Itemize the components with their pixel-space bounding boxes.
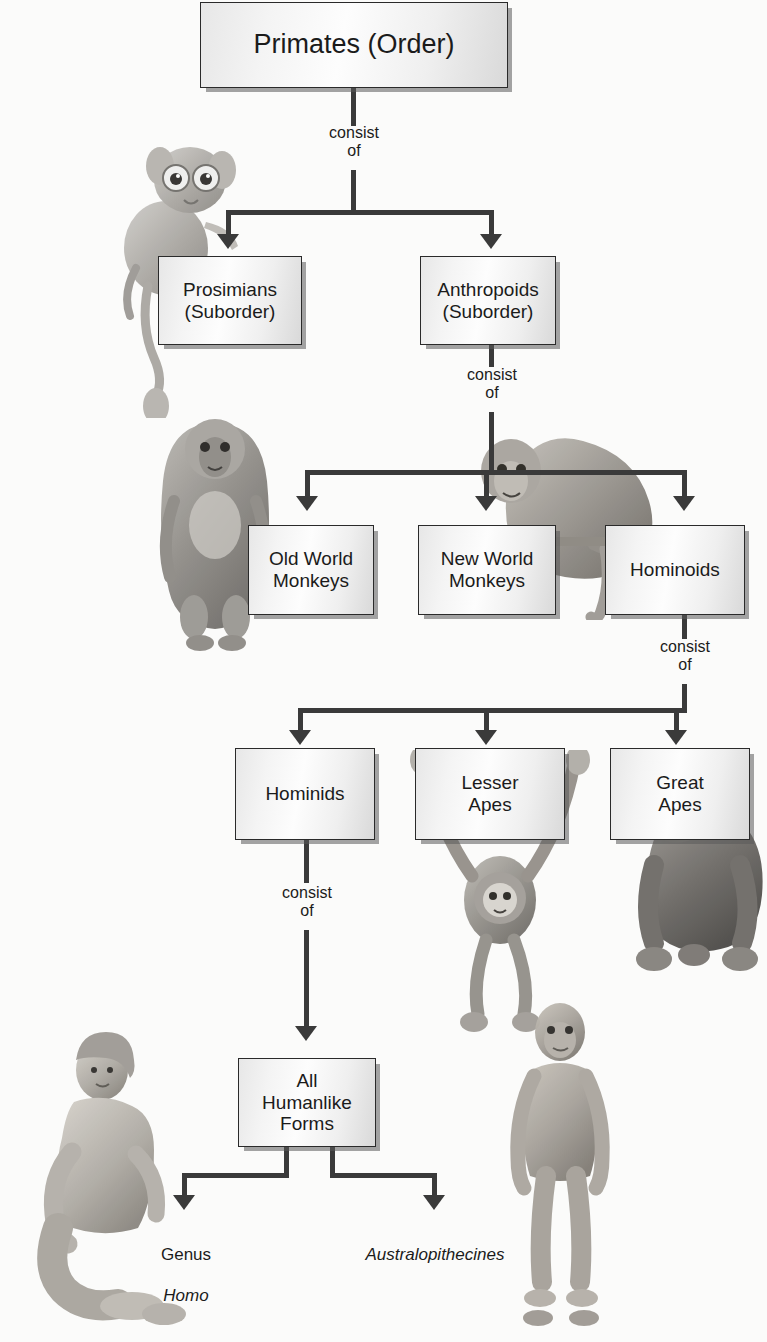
node-anthropoids-label: Anthropoids (Suborder) [433, 279, 542, 323]
arrow-to-humanlike [295, 1026, 317, 1041]
node-prosimians-label: Prosimians (Suborder) [179, 279, 281, 323]
diagram-canvas: consist of consist of consist of consist… [0, 0, 767, 1342]
connector-to-hominids [298, 708, 303, 732]
connector-to-anthropoids [489, 210, 494, 236]
node-hominoids-label: Hominoids [626, 559, 724, 581]
consist-of-primates: consist of [306, 124, 402, 161]
node-hominids-label: Hominids [261, 783, 348, 805]
node-old-world-monkeys[interactable]: Old World Monkeys [248, 525, 374, 615]
arrow-to-lesser-apes [475, 730, 497, 745]
connector-to-hominoids [682, 470, 687, 498]
connector-to-genus-homo [182, 1173, 187, 1197]
connector-primates-down-2 [351, 170, 356, 214]
arrow-to-anthropoids [480, 234, 502, 249]
arrow-to-hominoids [673, 496, 695, 511]
arrow-to-prosimians [217, 234, 239, 249]
node-lesser-apes-label: Lesser Apes [457, 772, 522, 816]
connector-hominids-down-2 [304, 930, 309, 1028]
connector-level3-bus [298, 708, 687, 713]
leaf-genus-homo: Genus Homo [130, 1225, 242, 1307]
node-anthropoids[interactable]: Anthropoids (Suborder) [420, 256, 556, 345]
node-all-humanlike-forms-label: All Humanlike Forms [258, 1070, 356, 1136]
connector-level2-bus [305, 470, 687, 475]
node-great-apes-label: Great Apes [652, 772, 708, 816]
connector-primates-down [351, 88, 356, 126]
connector-anthropoids-down-2 [489, 412, 494, 474]
node-new-world-monkeys[interactable]: New World Monkeys [418, 525, 556, 615]
node-primates[interactable]: Primates (Order) [200, 2, 508, 88]
node-hominids[interactable]: Hominids [235, 748, 375, 840]
connector-hominoids-down [682, 615, 687, 639]
node-prosimians[interactable]: Prosimians (Suborder) [158, 256, 302, 345]
node-primates-label: Primates (Order) [249, 29, 458, 60]
arrow-to-great-apes [665, 730, 687, 745]
arrow-to-new-world [475, 496, 497, 511]
connector-to-prosimians [226, 210, 231, 236]
node-new-world-monkeys-label: New World Monkeys [437, 548, 538, 592]
connector-hominids-down [304, 840, 309, 883]
leaf-genus-homo-line1: Genus [161, 1245, 211, 1264]
connector-to-old-world [305, 470, 310, 498]
connector-to-lesser-apes [484, 708, 489, 732]
hominid-figure-illustration [480, 1000, 640, 1330]
arrow-to-australopithecines [423, 1195, 445, 1210]
arrow-to-genus-homo [173, 1195, 195, 1210]
node-hominoids[interactable]: Hominoids [605, 525, 745, 615]
consist-of-hominids: consist of [259, 884, 355, 921]
node-lesser-apes[interactable]: Lesser Apes [415, 748, 565, 840]
leaf-australopithecines: Australopithecines [344, 1225, 526, 1266]
connector-leaf-bus-left [182, 1173, 289, 1178]
consist-of-hominoids: consist of [637, 638, 733, 675]
connector-anthropoids-down [489, 345, 494, 367]
connector-to-new-world [484, 470, 489, 498]
node-all-humanlike-forms[interactable]: All Humanlike Forms [238, 1058, 376, 1147]
connector-leaf-bus-right [330, 1173, 437, 1178]
connector-to-great-apes [674, 708, 679, 732]
consist-of-anthropoids: consist of [444, 366, 540, 403]
arrow-to-hominids [289, 730, 311, 745]
node-old-world-monkeys-label: Old World Monkeys [265, 548, 357, 592]
arrow-to-old-world [296, 496, 318, 511]
leaf-australopithecines-line1: Australopithecines [366, 1245, 505, 1264]
node-great-apes[interactable]: Great Apes [610, 748, 750, 840]
connector-to-australopithecines [432, 1173, 437, 1197]
leaf-genus-homo-line2: Homo [163, 1286, 208, 1305]
connector-level1-bus [226, 210, 494, 215]
